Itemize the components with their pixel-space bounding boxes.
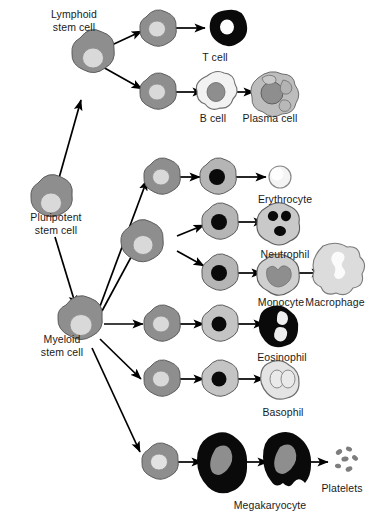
cell-erythroid-progenitor xyxy=(144,158,180,194)
arrow-gm-to-myeloblast xyxy=(177,225,204,236)
arrow-lymphoid-to-prog2 xyxy=(101,66,142,89)
cell-basophil xyxy=(261,361,299,399)
cell-basophil-myelocyte xyxy=(202,360,238,396)
cell-erythroblast xyxy=(200,158,236,194)
arrow-myeloid-to-mega-prog xyxy=(92,348,140,452)
cell-eosinophil-progenitor xyxy=(144,305,180,341)
label-plasma-cell: Plasma cell xyxy=(227,112,313,125)
label-macrophage: Macrophage xyxy=(297,296,373,309)
cell-lymphoid-progenitor-t xyxy=(140,10,176,46)
cell-lymphoid-progenitor-b xyxy=(140,73,176,109)
hematopoiesis-diagram: Lymphoid stem cell Pluripotent stem cell… xyxy=(0,0,373,530)
cell-t-cell xyxy=(210,10,247,47)
diagram-canvas xyxy=(0,0,373,530)
arrow-gm-to-monoblast xyxy=(177,251,204,266)
label-megakaryocyte: Megakaryocyte xyxy=(215,499,325,512)
cell-monoblast xyxy=(202,254,238,290)
label-myeloid-stem-cell: Myeloid stem cell xyxy=(16,333,108,358)
label-platelets: Platelets xyxy=(311,482,373,495)
cell-eosinophil xyxy=(259,306,299,348)
cell-basophil-progenitor xyxy=(144,360,180,396)
label-erythrocyte: Erythrocyte xyxy=(239,193,331,206)
cell-megakaryocyte-progenitor xyxy=(142,443,178,479)
cell-erythrocyte xyxy=(269,166,291,188)
label-lymphoid-stem-cell: Lymphoid stem cell xyxy=(24,8,124,33)
arrow-pluripotent-to-myeloid xyxy=(55,237,76,306)
label-pluripotent-stem-cell: Pluripotent stem cell xyxy=(6,211,106,236)
label-t-cell: T cell xyxy=(180,51,250,64)
cell-eosinophil-myelocyte xyxy=(202,305,238,341)
cell-platelets xyxy=(334,446,359,473)
cell-lymphoid-stem-cell xyxy=(72,30,114,73)
label-neutrophil: Neutrophil xyxy=(242,248,328,261)
cell-neutrophil xyxy=(257,203,300,245)
cell-myeloblast xyxy=(202,203,238,239)
cell-megakaryoblast xyxy=(197,432,247,493)
cell-megakaryocyte xyxy=(263,432,311,486)
cell-plasma-cell xyxy=(251,72,299,117)
label-eosinophil: Eosinophil xyxy=(239,351,325,364)
cell-b-cell xyxy=(196,72,237,110)
cell-granulocyte-monocyte-progenitor xyxy=(121,220,163,262)
label-basophil: Basophil xyxy=(244,406,322,419)
